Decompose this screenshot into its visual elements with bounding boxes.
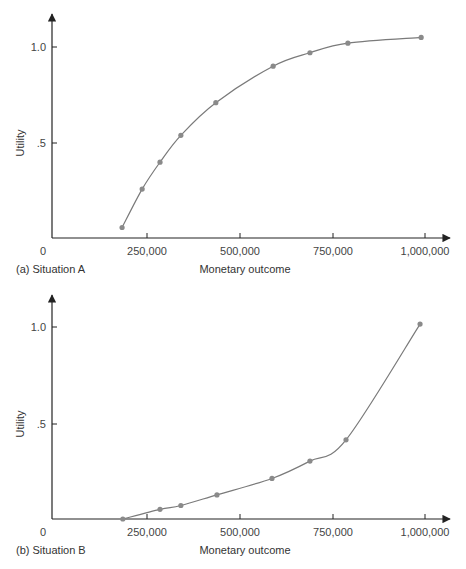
- utility-curve: [123, 324, 420, 519]
- data-point: [417, 321, 422, 326]
- data-point: [157, 507, 162, 512]
- x-axis-title: Monetary outcome: [199, 544, 290, 556]
- y-axis-title: Utility: [14, 410, 26, 437]
- chart-situation-a: 1.0 .5 0 250,000 500,000 750,000 1,000,0…: [14, 14, 450, 275]
- data-point: [157, 160, 162, 165]
- x-tick-label: 750,000: [313, 245, 353, 257]
- y-tick-label: .5: [37, 137, 46, 149]
- data-point: [343, 437, 348, 442]
- x-tick-label: 1,000,000: [401, 245, 450, 257]
- data-point: [214, 492, 219, 497]
- y-tick-label: .5: [37, 418, 46, 430]
- data-point: [419, 35, 424, 40]
- x-tick-label: 250,000: [127, 526, 167, 538]
- data-points: [120, 321, 422, 521]
- origin-label: 0: [40, 526, 46, 538]
- x-tick-marks: [147, 233, 425, 238]
- data-point: [269, 476, 274, 481]
- x-tick-label: 500,000: [220, 526, 260, 538]
- x-axis-title: Monetary outcome: [199, 263, 290, 275]
- chart-caption: (b) Situation B: [16, 544, 86, 556]
- data-point: [140, 186, 145, 191]
- data-point: [213, 100, 218, 105]
- y-tick-label: 1.0: [31, 41, 46, 53]
- y-tick-marks: [52, 47, 57, 143]
- data-point: [119, 225, 124, 230]
- x-tick-label: 1,000,000: [401, 526, 450, 538]
- x-tick-label: 250,000: [127, 245, 167, 257]
- chart-caption: (a) Situation A: [16, 263, 86, 275]
- y-tick-marks: [52, 327, 57, 424]
- origin-label: 0: [40, 245, 46, 257]
- data-point: [120, 516, 125, 521]
- x-tick-label: 500,000: [220, 245, 260, 257]
- x-tick-label: 750,000: [313, 526, 353, 538]
- data-point: [271, 64, 276, 69]
- y-axis-title: Utility: [14, 129, 26, 156]
- data-points: [119, 35, 423, 230]
- data-point: [307, 459, 312, 464]
- y-tick-label: 1.0: [31, 321, 46, 333]
- x-tick-marks: [147, 514, 425, 519]
- data-point: [307, 50, 312, 55]
- data-point: [178, 133, 183, 138]
- utility-charts: 1.0 .5 0 250,000 500,000 750,000 1,000,0…: [0, 0, 466, 569]
- chart-situation-b: 1.0 .5 0 250,000 500,000 750,000 1,000,0…: [14, 295, 450, 556]
- data-point: [178, 503, 183, 508]
- data-point: [345, 41, 350, 46]
